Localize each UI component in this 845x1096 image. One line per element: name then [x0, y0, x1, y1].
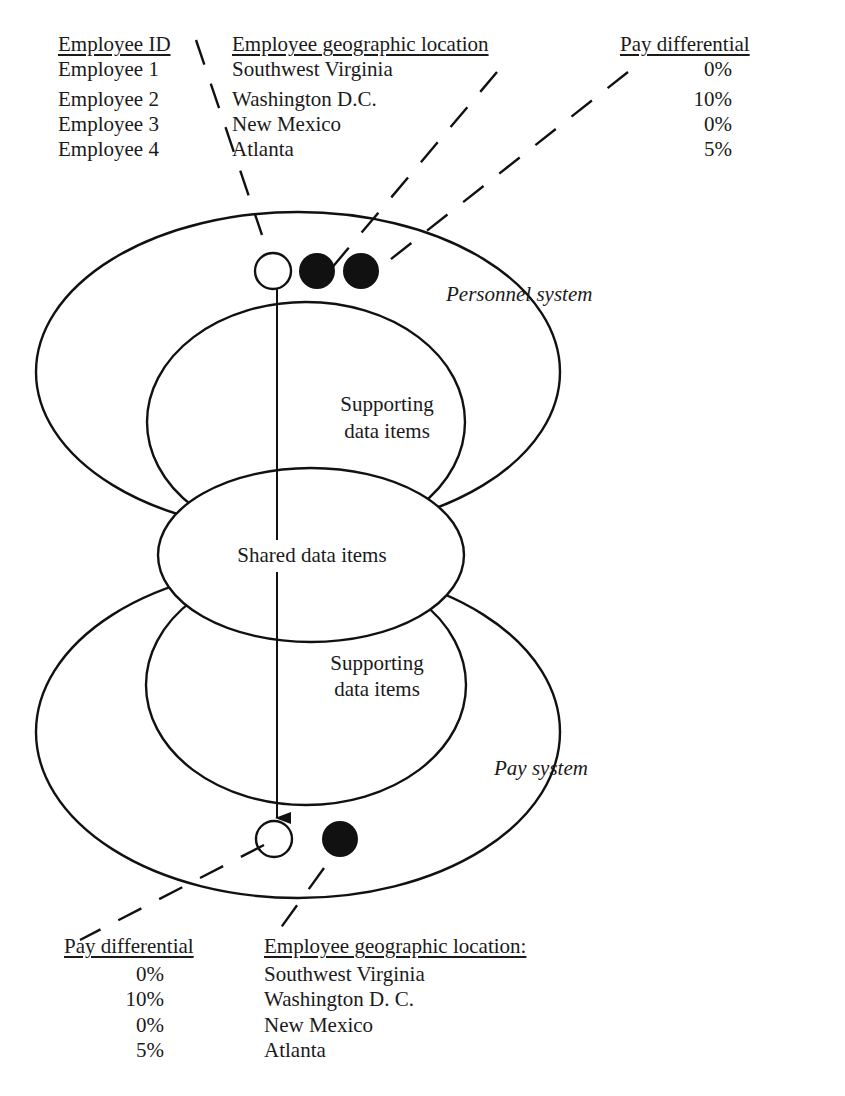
employee-id-cell: Employee 4 — [58, 138, 159, 160]
filled-circle-icon — [299, 253, 335, 289]
personnel-system-label: Personnel system — [446, 283, 592, 305]
pay-differential-cell: 10% — [100, 988, 164, 1010]
header-location: Employee geographic location — [232, 33, 489, 55]
location-cell: Washington D. C. — [264, 988, 414, 1010]
upper-supporting-label-2: data items — [316, 420, 458, 442]
location-cell: Southwest Virginia — [232, 58, 393, 80]
filled-circle-icon — [322, 821, 358, 857]
upper-supporting-label-1: Supporting — [316, 393, 458, 415]
header-employee-id: Employee ID — [58, 33, 171, 55]
employee-id-cell: Employee 2 — [58, 88, 159, 110]
pay-differential-cell: 5% — [680, 138, 732, 160]
pay-system-label: Pay system — [494, 757, 588, 779]
open-circle-icon — [255, 253, 291, 289]
header-pay-differential: Pay differential — [620, 33, 750, 55]
pay-differential-cell: 0% — [100, 1014, 164, 1036]
location-cell: Atlanta — [232, 138, 294, 160]
lower-supporting-label-2: data items — [306, 678, 448, 700]
pay-differential-cell: 0% — [680, 113, 732, 135]
location-cell: Atlanta — [264, 1039, 326, 1061]
location-cell: Southwest Virginia — [264, 963, 425, 985]
pay-differential-cell: 10% — [680, 88, 732, 110]
employee-id-cell: Employee 3 — [58, 113, 159, 135]
employee-id-cell: Employee 1 — [58, 58, 159, 80]
location-cell: Washington D.C. — [232, 88, 377, 110]
pay-differential-cell: 0% — [100, 963, 164, 985]
pay-differential-cell: 5% — [100, 1039, 164, 1061]
open-circle-icon — [256, 821, 292, 857]
dashed-connector-pay-differential — [367, 72, 628, 278]
shared-data-label: Shared data items — [190, 544, 434, 566]
filled-circle-icon — [343, 253, 379, 289]
bottom-header-location: Employee geographic location: — [264, 935, 526, 957]
location-cell: New Mexico — [264, 1014, 373, 1036]
location-cell: New Mexico — [232, 113, 341, 135]
bottom-header-pay-differential: Pay differential — [64, 935, 194, 957]
lower-supporting-label-1: Supporting — [306, 652, 448, 674]
dashed-connector-bottom-location — [272, 868, 324, 940]
pay-differential-cell: 0% — [680, 58, 732, 80]
